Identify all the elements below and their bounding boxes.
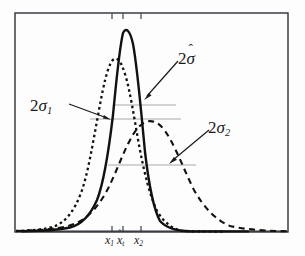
annotation-arrow-sigma-2 (169, 130, 209, 164)
curve-sensor-1 (16, 59, 225, 232)
sigma-hat-glyph: σ̂ (187, 49, 195, 69)
tick-label-xt-subscript: t (122, 239, 124, 248)
annotation-sigma-2-subscript: 2 (225, 127, 230, 138)
top-tick-group (112, 14, 141, 20)
tick-label-x1: x1 (105, 233, 114, 248)
annotation-sigma-1-coefficient: 2 (30, 96, 39, 115)
annotation-sigma-1-subscript: 1 (47, 105, 52, 116)
annotation-sigma-2-symbol: σ (217, 118, 225, 137)
annotation-sigma-hat-coefficient: 2 (178, 49, 187, 68)
annotation-sigma-1-symbol: σ (39, 96, 47, 115)
annotation-arrow-sigma-1 (69, 104, 111, 120)
annotation-arrow-sigma-hat (144, 61, 178, 100)
annotation-label-sigma-hat: 2σ̂ (178, 49, 195, 69)
x-hat-glyph: x̂ (117, 233, 122, 248)
annotation-label-sigma-1: 2σ1 (30, 96, 52, 116)
annotation-label-sigma-2: 2σ2 (208, 118, 230, 138)
distribution-plot (0, 0, 305, 256)
annotation-sigma-2-coefficient: 2 (208, 118, 217, 137)
tick-label-xt: x̂t (117, 233, 124, 248)
tick-label-x1-subscript: 1 (110, 239, 114, 248)
figure-canvas: 2σ̂ 2σ1 2σ2 x1 x̂t x2 (0, 0, 305, 256)
curve-sensor-2 (16, 121, 287, 231)
sigma-hat-symbol: σ (187, 49, 195, 68)
tick-label-xt-base: x (117, 233, 122, 247)
tick-label-x2: x2 (134, 233, 143, 248)
tick-label-x2-subscript: 2 (139, 239, 143, 248)
